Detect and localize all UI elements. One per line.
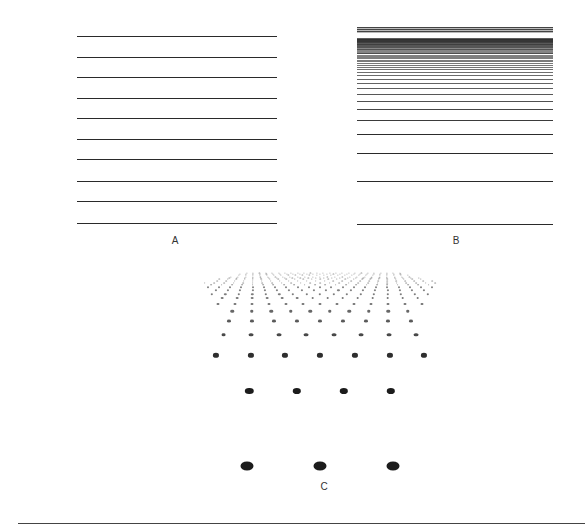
panel-c-dot [234,280,236,281]
panel-c-dot [292,388,300,394]
panel-c-dot [386,290,388,292]
panel-c-dot [223,282,225,283]
panel-c-dot [406,282,408,283]
panel-c-dot [372,275,373,276]
panel-c-dot [421,353,427,357]
panel-c-dot [246,274,247,275]
panel-c-dot [348,282,350,283]
panel-c-dot [330,287,332,288]
panel-b-line [357,38,553,39]
panel-c-dot [355,284,357,285]
panel-c-dot [304,276,305,277]
panel-b-line [357,88,553,89]
panel-c-dot [356,297,359,299]
panel-c-dot [339,388,347,394]
panel-a-line [77,201,277,202]
panel-b-line [357,134,553,135]
bottom-rule [18,523,585,524]
panel-c-dot [401,297,404,299]
panel-c-dot [270,310,274,312]
panel-c-dot [351,275,352,276]
panel-c-dot [240,287,242,288]
panel-c-dot [353,279,355,280]
panel-c-dot [210,284,212,285]
panel-c-dot [304,333,309,336]
panel-c-dot [229,287,231,288]
panel-c-dot [276,333,281,336]
panel-c-dot [353,287,355,288]
panel-c-dot [344,275,345,276]
panel-c-dot [316,273,317,274]
panel-c-dot [235,279,237,280]
panel-c-dot [337,290,339,292]
panel-c-dot [315,277,316,278]
panel-c-dot [387,461,400,470]
panel-c-dot [217,303,220,305]
panel-b-line [357,55,553,56]
panel-c-dot [281,297,284,299]
panel-c-dot [252,282,254,283]
panel-b-line [357,67,553,68]
panel-c-dot [211,293,213,295]
panel-c-dot [221,284,223,285]
panel-c-dot [288,290,290,292]
panel-c-dot [386,293,388,295]
panel-c-dot [386,333,391,336]
panel-c-dot [386,276,387,277]
panel-c-dot [353,303,356,305]
panel-b-line [357,42,553,43]
panel-c-dot [327,276,328,277]
panel-c-dot [328,279,330,280]
panel-c-dot [215,290,217,292]
panel-c-dot [241,284,243,285]
panel-c-dot [380,274,381,275]
panel-c-dot [281,282,283,283]
panel-b-line [357,51,553,52]
panel-c-dot [252,287,254,288]
panel-c-dot [420,303,423,305]
panel-c-dot [330,275,331,276]
panel-c-dot [342,276,343,277]
panel-b-line [357,41,553,42]
panel-c-dot [250,319,254,322]
panel-c-dot [417,284,419,285]
panel-c-dot [313,274,314,275]
panel-c-dot [386,303,389,305]
panel-c-dot [352,353,358,357]
panel-c-dot [289,310,293,312]
panel-c-dot [295,275,296,276]
panel-b-line [357,60,553,61]
panel-c-dot [268,303,271,305]
panel-b-line [357,69,553,70]
panel-c-dot [342,280,344,281]
panel-c-dot [366,284,368,285]
panel-c-dot [252,279,254,280]
panel-c-dot [396,282,398,283]
panel-c-dot [407,284,409,285]
panel-c-dot [293,284,295,285]
panel-b-line [357,53,553,54]
panel-c-dot [386,282,388,283]
panel-b-line [357,43,553,44]
panel-c-dot [366,274,367,275]
panel-a-line [77,181,277,182]
panel-b-line [357,46,553,47]
panel-c-dot [290,276,291,277]
panel-c-dot [276,290,278,292]
panel-c-dot [420,279,422,280]
panel-c-dot [261,280,263,281]
panel-c-dot [213,282,215,283]
panel-c-dot [250,310,254,312]
panel-c-dot [312,276,313,277]
panel-b-line [357,94,553,95]
panel-b-line [357,224,553,225]
panel-c-dot [261,279,263,280]
panel-c-dot [241,461,254,470]
panel-c-dot [431,287,433,288]
panel-b-line [357,63,553,64]
panel-c-dot [370,279,372,280]
panel-c-dot [204,282,206,283]
panel-c-dot [294,279,296,280]
panel-c-dot [357,276,358,277]
panel-c-dot [311,297,314,299]
